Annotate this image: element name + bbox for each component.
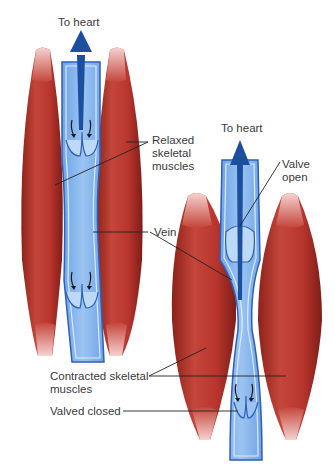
valve-closed-label: Valved closed	[50, 405, 121, 418]
right-muscle-2	[258, 193, 322, 440]
left-muscle-2	[96, 48, 143, 357]
right-to-heart-label: To heart	[221, 122, 263, 135]
contracted-muscles-label: Contracted skeletal muscles	[50, 370, 148, 396]
relaxed-muscles-label: Relaxed skeletal muscles	[152, 134, 194, 173]
valve-open-label: Valve open	[282, 158, 310, 184]
muscle-pump-diagram: To heart Relaxed skeletal muscles Vein T…	[0, 0, 334, 471]
vein-label: Vein	[154, 226, 176, 239]
left-muscle-1	[21, 48, 63, 357]
left-to-heart-label: To heart	[58, 16, 100, 29]
